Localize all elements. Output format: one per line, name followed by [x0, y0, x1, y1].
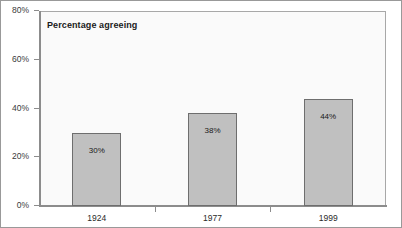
y-axis-line: [39, 11, 41, 207]
bar: 38%: [188, 113, 237, 206]
y-axis-tick-mark: [34, 108, 39, 109]
y-axis-tick-mark: [34, 205, 39, 206]
bar: 44%: [304, 99, 353, 206]
y-axis-tick-mark: [34, 156, 39, 157]
bar-value-label: 44%: [305, 112, 352, 121]
bar-value-label: 30%: [73, 146, 120, 155]
y-axis-tick-label: 20%: [12, 151, 29, 161]
x-axis-separator-tick: [270, 207, 271, 212]
x-axis-separator-tick: [155, 207, 156, 212]
y-axis-tick-label: 60%: [12, 54, 29, 64]
y-axis-tick-mark: [34, 59, 39, 60]
chart-title: Percentage agreeing: [47, 20, 137, 30]
x-axis-tick-label: 1924: [87, 213, 106, 223]
x-axis-tick-label: 1977: [203, 213, 222, 223]
y-axis-tick-label: 40%: [12, 103, 29, 113]
y-axis-tick-mark: [34, 10, 39, 11]
x-axis-tick-label: 1999: [319, 213, 338, 223]
y-axis-tick-label: 80%: [12, 5, 29, 15]
bar-chart-figure: Percentage agreeing 0%20%40%60%80% 19241…: [0, 0, 402, 228]
y-axis-tick-label: 0%: [17, 200, 29, 210]
bar-value-label: 38%: [189, 126, 236, 135]
bar: 30%: [72, 133, 121, 206]
